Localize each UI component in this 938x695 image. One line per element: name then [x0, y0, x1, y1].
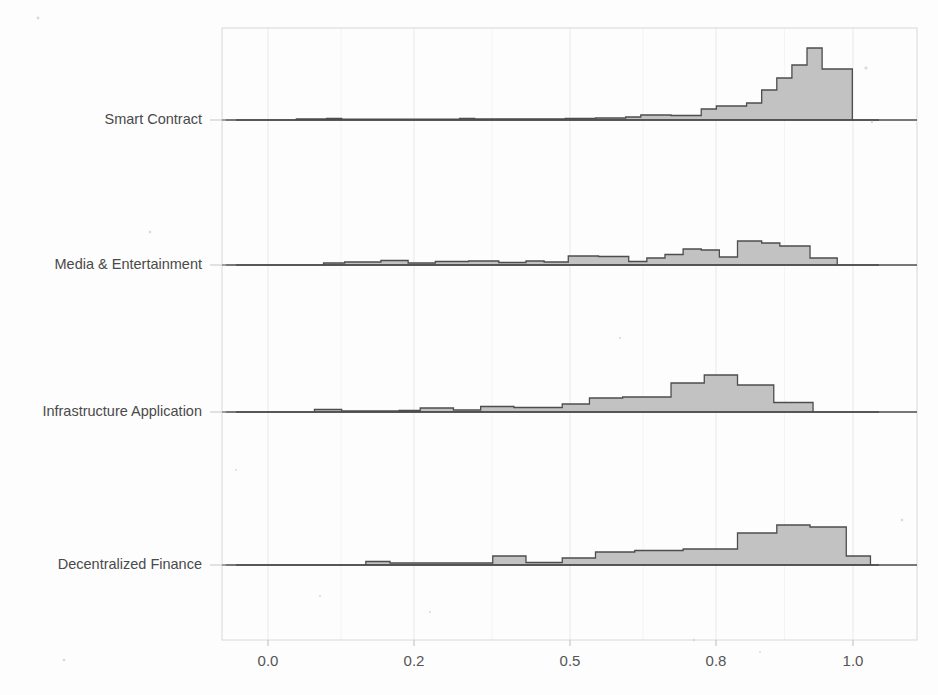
scan-speck-4: [319, 595, 321, 597]
scan-speck-6: [235, 469, 237, 471]
scan-speck-2: [37, 17, 40, 20]
scan-speck-10: [759, 651, 761, 653]
category-label-decentralized-finance: Decentralized Finance: [58, 556, 202, 572]
scan-speck-1: [871, 121, 873, 123]
category-label-smart-contract: Smart Contract: [105, 111, 203, 127]
ridgeline-chart-svg: Smart ContractMedia & EntertainmentInfra…: [0, 0, 938, 695]
x-tick-label-0.8: 0.8: [706, 652, 727, 669]
ridgeline-chart-page: Smart ContractMedia & EntertainmentInfra…: [0, 0, 938, 695]
category-label-media-entertainment: Media & Entertainment: [55, 256, 203, 272]
scan-speck-9: [63, 659, 66, 662]
x-tick-label-0.2: 0.2: [404, 652, 425, 669]
x-tick-label-1.0: 1.0: [843, 652, 864, 669]
category-label-infrastructure-application: Infrastructure Application: [42, 403, 202, 419]
scan-speck-0: [864, 66, 867, 69]
scan-speck-3: [149, 231, 151, 233]
scan-speck-11: [429, 611, 431, 613]
x-tick-label-0.5: 0.5: [560, 652, 581, 669]
scan-speck-7: [619, 337, 621, 339]
x-tick-label-0.0: 0.0: [258, 652, 279, 669]
scan-speck-5: [693, 639, 696, 642]
scan-speck-8: [901, 519, 903, 521]
